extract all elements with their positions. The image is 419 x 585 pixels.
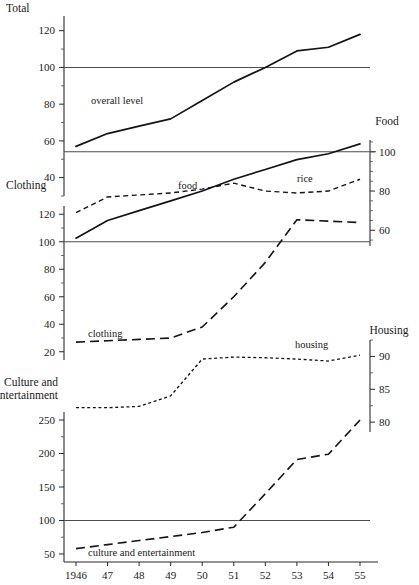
housing-tick-90: 90 [379,350,391,362]
total-tick-120: 120 [39,24,56,36]
total-tick-80: 80 [44,98,56,110]
clothing-tick-80: 80 [44,263,56,275]
culture-tick-250: 250 [39,414,56,426]
x-tick-label-47: 47 [102,569,114,581]
housing-axis-tick-labels: 808590 [379,350,391,428]
clothing-tick-120: 120 [39,208,56,220]
clothing-tick-20: 20 [44,346,56,358]
x-tick-label-50: 50 [197,569,209,581]
label-food: food [178,180,198,191]
total-tick-60: 60 [44,135,56,147]
x-tick-label-52: 52 [260,569,271,581]
chart-canvas: 406080100120 6080100 Total Food overall … [0,0,419,585]
food-tick-80: 80 [379,185,391,197]
x-tick-label-1946: 1946 [65,569,88,581]
x-tick-label-48: 48 [134,569,146,581]
culture-tick-100: 100 [39,514,56,526]
housing-axis-title: Housing [370,324,409,337]
label-rice: rice [297,173,313,184]
label-clothing: clothing [88,328,123,339]
total-tick-100: 100 [39,61,56,73]
culture-tick-50: 50 [44,548,56,560]
x-tick-label-49: 49 [165,569,177,581]
multi-panel-price-index-chart: 406080100120 6080100 Total Food overall … [0,0,419,585]
clothing-tick-60: 60 [44,291,56,303]
culture-axis-title-line2: entertainment [0,389,59,401]
food-axis-title: Food [375,115,399,127]
food-tick-60: 60 [379,224,391,236]
clothing-axis-title: Clothing [6,179,47,192]
food-tick-100: 100 [379,146,396,158]
housing-tick-80: 80 [379,416,391,428]
culture-tick-200: 200 [39,447,56,459]
x-tick-label-53: 53 [291,569,303,581]
label-overall-level: overall level [91,95,143,106]
clothing-tick-40: 40 [44,318,56,330]
label-housing: housing [295,339,329,350]
x-tick-label-51: 51 [228,569,239,581]
label-culture-entertainment: culture and entertainment [88,547,195,558]
culture-axis-title-line1: Culture and [4,376,58,388]
x-tick-label-54: 54 [323,569,335,581]
culture-tick-150: 150 [39,481,56,493]
housing-tick-85: 85 [379,383,391,395]
total-axis-title: Total [6,2,29,14]
clothing-tick-100: 100 [39,236,56,248]
x-tick-label-55: 55 [355,569,367,581]
chart-background [0,0,419,585]
